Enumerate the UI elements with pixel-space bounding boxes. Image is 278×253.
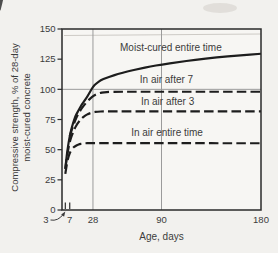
y-axis-title-line-2: moist-cured concrete [21, 73, 32, 162]
x-tick-label-3: 3 [43, 214, 48, 225]
y-tick-label-75: 75 [45, 114, 56, 125]
y-tick-label-50: 50 [45, 144, 56, 155]
y-tick-label-25: 25 [45, 174, 56, 185]
series-label-in-air-after-3: In air after 3 [141, 96, 195, 107]
strength-vs-age-chart: Moist-cured entire timeIn air after 7In … [0, 0, 278, 253]
x-axis-title: Age, days [139, 231, 183, 242]
x-tick-label-28: 28 [88, 214, 99, 225]
x-tick-label-7: 7 [67, 214, 72, 225]
y-tick-label-125: 125 [40, 53, 56, 64]
y-tick-label-150: 150 [40, 23, 56, 34]
x-tick-label-90: 90 [156, 214, 167, 225]
y-tick-label-0: 0 [50, 204, 55, 215]
y-axis-title-line-1: Compressive strength, % of 28-day [9, 43, 20, 192]
series-label-moist-cured-entire-time: Moist-cured entire time [120, 42, 222, 53]
scan-artifact-corner-mark [0, 0, 3, 10]
figure-concrete-strength-curing: Moist-cured entire timeIn air after 7In … [0, 0, 278, 253]
series-label-in-air-after-7: In air after 7 [140, 74, 194, 85]
x-tick-label-180: 180 [253, 214, 269, 225]
scan-artifact-smudge [203, 3, 237, 13]
y-tick-label-100: 100 [40, 84, 56, 95]
series-label-in-air-entire-time: In air entire time [131, 127, 203, 138]
